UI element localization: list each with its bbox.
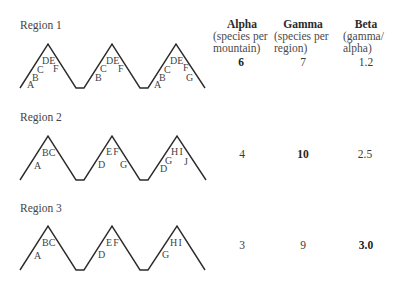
column-title: Beta [355,18,378,30]
species-label: A [34,250,42,261]
species-label: EF [106,237,120,248]
species-label: HI [171,146,184,157]
mountain-range-outline [20,44,205,88]
alpha-value: 6 [238,56,244,68]
mountain-2-species: D EF G [98,146,127,170]
species-label: DE [170,55,183,66]
alpha-value: 3 [239,239,245,251]
species-label: J [184,156,188,167]
species-label: G [186,72,193,83]
region-3-values: 3 9 3.0 [239,239,373,251]
region-label: Region 2 [20,111,62,124]
table-header: Alpha (species per mountain) Gamma (spec… [213,18,385,55]
region-label: Region 1 [20,19,62,32]
species-label: G [120,159,127,170]
species-label: BC [42,237,56,248]
column-subtitle-line2: region) [274,42,307,55]
species-label: F [53,63,59,74]
column-subtitle-line2: alpha) [343,42,372,55]
species-label: HI [170,237,183,248]
beta-value: 1.2 [359,56,374,68]
species-label: BC [42,147,56,158]
biodiversity-figure: Alpha (species per mountain) Gamma (spec… [0,0,396,288]
species-label: A [34,160,42,171]
mountain-2-species: D EF [98,237,120,260]
species-label: D [98,249,105,260]
column-header-alpha: Alpha (species per mountain) [213,18,268,55]
species-label: F [118,63,124,74]
region-2: Region 2 A BC D EF G D G HI J 4 10 2.5 [20,111,372,180]
column-subtitle-line2: mountain) [213,42,260,55]
column-header-gamma: Gamma (species per region) [274,18,329,55]
mountain-3-species: D G HI J [160,146,188,174]
column-title: Gamma [283,18,323,30]
beta-value: 3.0 [359,239,374,251]
mountain-3-species: G HI [162,237,183,260]
mountain-range-outline [20,226,205,270]
species-label: D [98,159,105,170]
mountain-2-species: B C DE F [95,55,124,83]
column-header-beta: Beta (gamma/ alpha) [343,18,385,55]
gamma-value: 10 [297,148,309,160]
beta-value: 2.5 [358,148,373,160]
alpha-value: 4 [239,148,245,160]
region-label: Region 3 [20,202,62,215]
region-2-values: 4 10 2.5 [239,148,372,160]
mountain-1-species: A BC [34,237,56,261]
gamma-value: 9 [300,239,306,251]
mountain-range-outline [20,136,206,180]
gamma-value: 7 [300,56,306,68]
region-3: Region 3 A BC D EF G HI 3 9 3.0 [20,202,373,270]
mountain-1-species: A BC [34,147,56,171]
species-label: G [162,249,169,260]
species-label: EF [106,146,120,157]
region-1-values: 6 7 1.2 [238,56,373,68]
mountain-1-species: A B C DE F [27,55,59,90]
